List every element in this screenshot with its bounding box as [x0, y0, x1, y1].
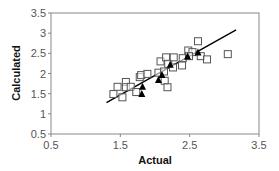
x-tick-label: 1.5 [113, 139, 128, 151]
y-tick-label: 3 [40, 27, 46, 39]
x-tick-label: 2.5 [182, 139, 197, 151]
scatter-chart: 0.511.522.533.5 0.51.52.53.5 Actual Calc… [0, 0, 279, 171]
y-tick-label: 2.5 [31, 47, 46, 59]
square-marker [119, 94, 126, 101]
y-tick-label: 1 [40, 108, 46, 120]
y-axis-label: Calculated [10, 45, 22, 101]
square-marker [144, 70, 151, 77]
square-marker [170, 54, 177, 61]
square-marker [194, 38, 201, 45]
square-marker [133, 89, 140, 96]
square-marker [179, 62, 186, 69]
square-marker [163, 54, 170, 61]
square-marker [161, 77, 168, 84]
y-tick-label: 2 [40, 68, 46, 80]
square-marker [224, 51, 231, 58]
y-tick-label: 1.5 [31, 88, 46, 100]
y-tick-label: 3.5 [31, 7, 46, 19]
x-axis-label: Actual [138, 154, 172, 166]
x-axis: 0.51.52.53.5 [43, 134, 266, 151]
x-tick-label: 0.5 [43, 139, 58, 151]
y-axis: 0.511.522.533.5 [31, 7, 51, 140]
square-marker [164, 84, 171, 91]
square-marker [114, 83, 121, 90]
x-tick-label: 3.5 [251, 139, 266, 151]
square-marker [204, 56, 211, 63]
square-marker [110, 91, 117, 98]
